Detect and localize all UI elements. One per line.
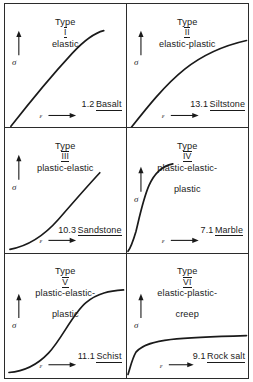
specimen-label-3: 10.3Sandstone <box>58 225 121 235</box>
sigma-arrowhead-3 <box>16 155 21 161</box>
sigma-label-5: σ <box>12 320 17 330</box>
epsilon-arrowhead-4 <box>192 238 198 243</box>
epsilon-label-3: ε <box>40 238 43 245</box>
curve-path-3 <box>10 173 100 250</box>
epsilon-label-2: ε <box>161 112 164 119</box>
epsilon-arrowhead-6 <box>187 362 193 367</box>
epsilon-label-5: ε <box>40 361 43 368</box>
specimen-number-3: 10.3 <box>58 225 77 235</box>
sigma-arrowhead-1 <box>16 31 21 37</box>
specimen-rock-4: Marble <box>215 225 243 237</box>
sigma-arrowhead-4 <box>138 167 143 173</box>
specimen-rock-1: Basalt <box>96 99 122 111</box>
epsilon-arrowhead-3 <box>70 238 76 243</box>
panel-type-5: Type V plastic-elastic- plastic σ ε 11.1… <box>4 254 127 379</box>
specimen-rock-6: Rock salt <box>207 351 245 363</box>
epsilon-arrowhead-2 <box>192 113 198 118</box>
specimen-label-2: 13.1Siltstone <box>190 99 245 109</box>
specimen-number-6: 9.1 <box>193 351 207 361</box>
panel-type-3: Type III plastic-elastic σ ε 10.3Sandsto… <box>4 128 127 253</box>
curve-path-1 <box>11 31 104 127</box>
sigma-arrowhead-2 <box>138 31 143 37</box>
sigma-arrowhead-6 <box>138 293 143 299</box>
specimen-label-1: 1.2Basalt <box>82 99 122 109</box>
stress-strain-figure: Type I elastic σ ε 1.2Basalt <box>0 0 253 382</box>
sigma-label-6: σ <box>133 320 138 330</box>
specimen-number-4: 7.1 <box>201 225 215 235</box>
epsilon-label-4: ε <box>161 238 164 246</box>
epsilon-label-6: ε <box>159 361 162 368</box>
panel-type-2: Type II elastic-plastic σ ε 13.1Siltston… <box>127 3 250 128</box>
panel-type-1: Type I elastic σ ε 1.2Basalt <box>4 3 127 128</box>
epsilon-label-1: ε <box>40 112 43 119</box>
specimen-rock-3: Sandstone <box>78 225 122 237</box>
specimen-label-6: 9.1Rock salt <box>193 351 245 361</box>
sigma-label-1: σ <box>12 57 17 67</box>
specimen-number-1: 1.2 <box>82 99 96 109</box>
epsilon-arrowhead-5 <box>70 362 76 367</box>
sigma-label-2: σ <box>133 57 138 67</box>
specimen-label-4: 7.1Marble <box>201 225 243 235</box>
curve-path-4 <box>127 164 172 252</box>
curve-path-2 <box>128 41 246 128</box>
specimen-number-5: 11.1 <box>78 351 97 361</box>
epsilon-arrowhead-1 <box>70 113 76 118</box>
specimen-rock-5: Schist <box>96 351 121 363</box>
sigma-label-4: σ <box>133 194 138 204</box>
panel-type-6: Type VI elastic-plastic- creep σ ε 9.1Ro… <box>127 254 250 379</box>
panel-grid: Type I elastic σ ε 1.2Basalt <box>4 3 249 379</box>
sigma-label-3: σ <box>12 182 17 192</box>
panel-type-4: Type IV plastic-elastic- plastic σ ε 7.1… <box>127 128 250 253</box>
specimen-number-2: 13.1 <box>190 99 209 109</box>
specimen-label-5: 11.1Schist <box>78 351 122 361</box>
specimen-rock-2: Siltstone <box>210 99 245 111</box>
sigma-arrowhead-5 <box>16 293 21 299</box>
